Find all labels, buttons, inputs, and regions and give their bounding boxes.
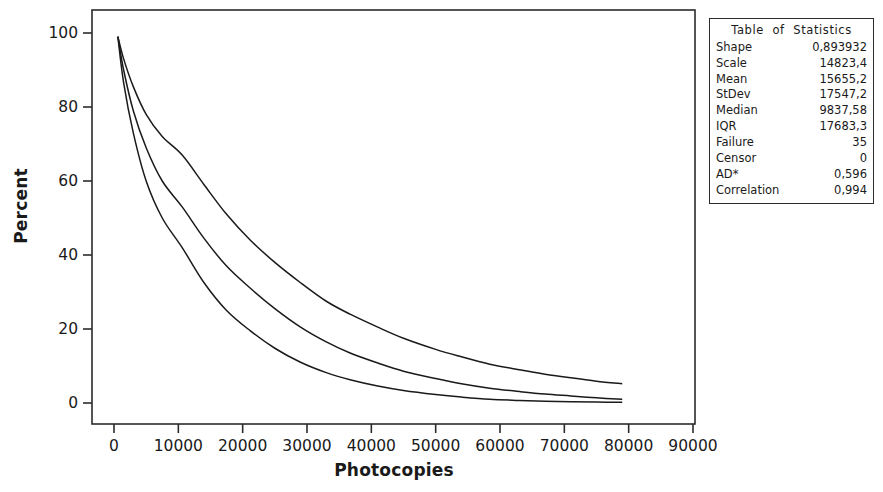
statistics-row-label: Censor (716, 151, 756, 167)
statistics-row-value: 17547,2 (819, 87, 867, 103)
plot-frame (92, 10, 695, 424)
y-tick-label: 80 (26, 98, 78, 116)
y-axis-title: Percent (11, 156, 31, 256)
statistics-row-value: 35 (852, 135, 867, 151)
x-tick-label: 20000 (218, 437, 267, 455)
x-tick-label: 80000 (604, 437, 653, 455)
statistics-row-value: 0,893932 (812, 40, 867, 56)
statistics-row: Mean15655,2 (716, 72, 867, 88)
statistics-row: Correlation0,994 (716, 183, 867, 199)
statistics-row: IQR17683,3 (716, 119, 867, 135)
statistics-row: Failure35 (716, 135, 867, 151)
statistics-row: StDev17547,2 (716, 87, 867, 103)
x-tick-label: 10000 (154, 437, 203, 455)
x-tick-label: 50000 (411, 437, 460, 455)
statistics-row-value: 15655,2 (819, 72, 867, 88)
statistics-row-label: Scale (716, 56, 747, 72)
statistics-row-label: Failure (716, 135, 754, 151)
statistics-row-label: Correlation (716, 183, 779, 199)
survival-plot-figure: 0100002000030000400005000060000700008000… (0, 0, 883, 492)
x-tick-label: 70000 (540, 437, 589, 455)
statistics-row-value: 9837,58 (819, 103, 867, 119)
y-tick-label: 40 (26, 246, 78, 264)
statistics-row: Scale14823,4 (716, 56, 867, 72)
y-tick-label: 20 (26, 320, 78, 338)
statistics-row-label: Mean (716, 72, 747, 88)
y-axis-ticks (83, 33, 92, 403)
x-axis-title: Photocopies (92, 460, 696, 480)
statistics-row: Shape0,893932 (716, 40, 867, 56)
x-tick-label: 0 (109, 437, 119, 455)
statistics-row-label: AD* (716, 167, 738, 183)
statistics-row-value: 14823,4 (819, 56, 867, 72)
statistics-row-label: Median (716, 103, 758, 119)
x-tick-label: 60000 (475, 437, 524, 455)
y-tick-label: 0 (26, 394, 78, 412)
statistics-row-label: Shape (716, 40, 752, 56)
x-tick-label: 90000 (668, 437, 717, 455)
statistics-row-value: 0,994 (834, 183, 867, 199)
y-tick-label: 100 (26, 24, 78, 42)
statistics-row-label: StDev (716, 87, 751, 103)
statistics-row-label: IQR (716, 119, 736, 135)
statistics-row-value: 17683,3 (819, 119, 867, 135)
statistics-row: Median9837,58 (716, 103, 867, 119)
statistics-row: Censor0 (716, 151, 867, 167)
x-axis-ticks (114, 424, 693, 433)
statistics-row-value: 0 (860, 151, 867, 167)
x-tick-label: 30000 (282, 437, 331, 455)
statistics-table: Table of Statistics Shape0,893932Scale14… (709, 18, 874, 204)
y-tick-label: 60 (26, 172, 78, 190)
statistics-table-body: Shape0,893932Scale14823,4Mean15655,2StDe… (716, 40, 867, 199)
statistics-row: AD*0,596 (716, 167, 867, 183)
statistics-table-title: Table of Statistics (716, 23, 867, 39)
x-tick-label: 40000 (347, 437, 396, 455)
statistics-row-value: 0,596 (834, 167, 867, 183)
